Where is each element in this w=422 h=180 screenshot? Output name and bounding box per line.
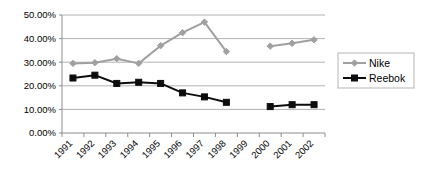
- data-point-marker: [289, 102, 295, 108]
- y-tick-label: 10.00%: [24, 104, 57, 115]
- y-tick-label: 40.00%: [24, 33, 57, 44]
- y-tick-label: 20.00%: [24, 80, 57, 91]
- data-point-marker: [267, 104, 273, 110]
- legend-label: Nike: [369, 57, 390, 69]
- legend-label: Reebok: [369, 72, 406, 84]
- y-tick-label: 50.00%: [24, 9, 57, 20]
- data-point-marker: [92, 72, 98, 78]
- data-point-marker: [136, 79, 142, 85]
- data-point-marker: [114, 80, 120, 86]
- data-point-marker: [201, 94, 207, 100]
- data-point-marker: [158, 80, 164, 86]
- legend-swatch-marker: [351, 75, 358, 82]
- line-chart: 50.00%40.00%30.00%20.00%10.00%0.00% 1991…: [0, 0, 422, 180]
- data-point-marker: [311, 102, 317, 108]
- y-tick-label: 30.00%: [24, 57, 57, 68]
- y-tick-label: 0.00%: [29, 127, 56, 138]
- data-point-marker: [180, 90, 186, 96]
- chart-screenshot: 50.00%40.00%30.00%20.00%10.00%0.00% 1991…: [0, 0, 422, 180]
- data-point-marker: [70, 75, 76, 81]
- chart-legend: NikeReebok: [338, 53, 414, 88]
- data-point-marker: [223, 99, 229, 105]
